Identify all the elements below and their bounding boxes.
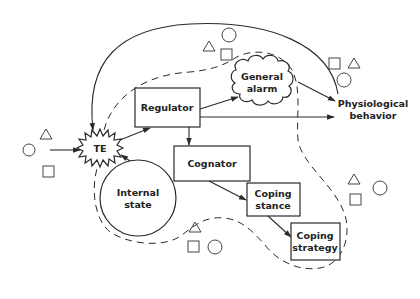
internal-state-node: Internal state xyxy=(100,160,176,236)
physiological-behavior-node: Physiological behavior xyxy=(338,98,409,121)
cognator-label: Cognator xyxy=(187,158,237,169)
environment-symbols-top xyxy=(203,28,236,60)
circle-icon xyxy=(373,181,387,195)
coping-strategy-label-1: Coping xyxy=(296,230,333,241)
feedback-arrow xyxy=(92,24,338,130)
physiological-label-2: behavior xyxy=(349,110,396,121)
coping-diagram: TE Regulator General alarm Physiological… xyxy=(0,0,420,299)
square-icon xyxy=(188,241,199,252)
coping-stance-label-1: Coping xyxy=(254,188,291,199)
coping-stance-node: Coping stance xyxy=(247,183,300,216)
triangle-icon xyxy=(203,41,215,51)
te-to-regulator-arrow xyxy=(120,128,150,140)
circle-icon xyxy=(23,144,35,156)
square-icon xyxy=(350,194,361,205)
regulator-node: Regulator xyxy=(135,88,200,127)
environment-symbols-right-lower xyxy=(348,174,387,205)
te-node: TE xyxy=(77,129,123,167)
environment-symbols-left xyxy=(23,129,54,177)
cognator-to-stance-arrow xyxy=(209,181,246,200)
coping-stance-label-2: stance xyxy=(255,200,290,211)
te-label: TE xyxy=(94,143,107,154)
cognator-node: Cognator xyxy=(174,146,250,181)
circle-icon xyxy=(337,73,351,87)
circle-icon xyxy=(208,240,222,254)
coping-strategy-label-2: strategy xyxy=(292,242,338,253)
physiological-label-1: Physiological xyxy=(338,98,409,109)
triangle-icon xyxy=(348,174,360,184)
square-icon xyxy=(329,58,340,69)
regulator-to-alarm-arrow xyxy=(200,97,238,109)
general-alarm-node: General alarm xyxy=(231,55,293,105)
triangle-icon xyxy=(348,58,360,68)
alarm-to-physiological-arrow xyxy=(298,82,335,101)
internal-state-label-2: state xyxy=(124,199,152,210)
coping-strategy-node: Coping strategy xyxy=(291,223,340,260)
square-icon xyxy=(221,49,232,60)
environment-symbols-right-top xyxy=(329,58,360,87)
triangle-icon xyxy=(189,222,201,232)
circle-icon xyxy=(222,28,236,42)
general-alarm-label-1: General xyxy=(241,71,283,82)
regulator-label: Regulator xyxy=(141,102,194,113)
internal-state-label-1: Internal xyxy=(117,187,159,198)
square-icon xyxy=(43,166,54,177)
general-alarm-label-2: alarm xyxy=(247,83,278,94)
stance-to-strategy-arrow xyxy=(268,216,291,237)
triangle-icon xyxy=(40,129,52,139)
